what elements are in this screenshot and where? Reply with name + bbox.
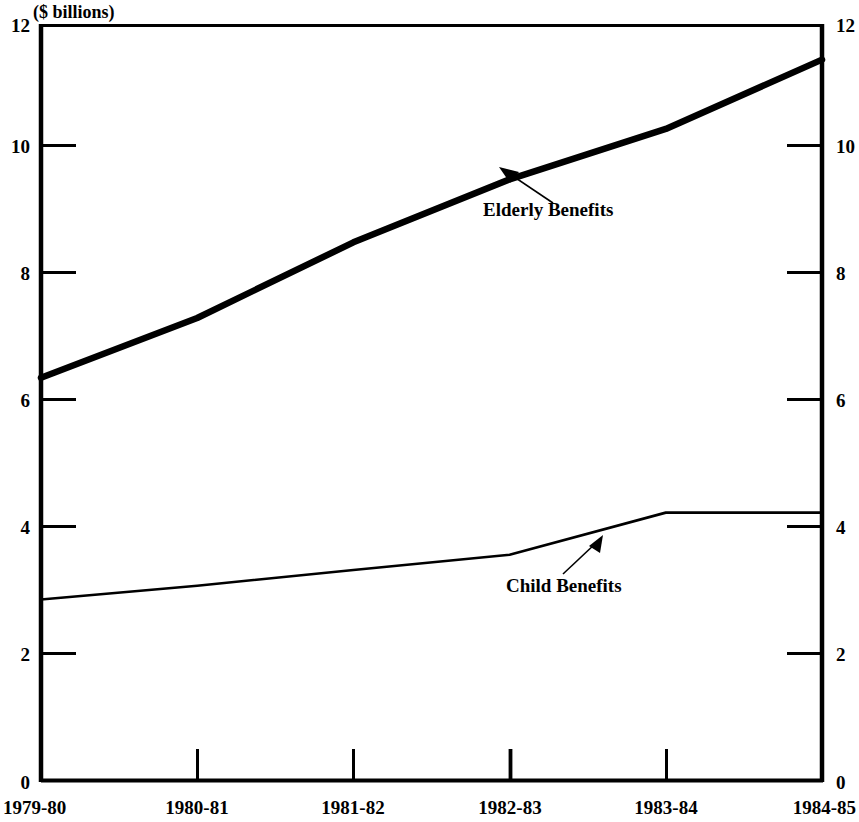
y-label-right-10: 10: [836, 136, 855, 157]
chart-unit-title: ($ billions): [33, 2, 115, 23]
x-label-1984-85: 1984-85: [793, 797, 856, 818]
y-label-left-0: 0: [21, 772, 31, 793]
elderly-benefits-label: Elderly Benefits: [483, 199, 613, 220]
x-label-1979-80: 1979-80: [3, 797, 66, 818]
x-label-1981-82: 1981-82: [321, 797, 384, 818]
x-label-1983-84: 1983-84: [634, 797, 698, 818]
y-label-right-12: 12: [836, 15, 855, 36]
y-label-right-6: 6: [836, 390, 846, 411]
line-chart-canvas: ($ billions): [0, 0, 859, 822]
y-label-left-8: 8: [21, 263, 31, 284]
y-label-right-2: 2: [836, 644, 846, 665]
y-label-right-8: 8: [836, 263, 846, 284]
y-label-left-6: 6: [21, 390, 31, 411]
y-label-left-10: 10: [11, 136, 30, 157]
chart-figure: ($ billions): [0, 0, 859, 822]
y-label-right-0: 0: [836, 772, 846, 793]
y-label-left-2: 2: [21, 644, 31, 665]
y-label-left-12: 12: [11, 15, 30, 36]
y-label-left-4: 4: [21, 517, 31, 538]
x-label-1982-83: 1982-83: [478, 797, 541, 818]
chart-background: [0, 0, 859, 822]
y-label-right-4: 4: [836, 517, 846, 538]
x-label-1980-81: 1980-81: [165, 797, 228, 818]
child-benefits-label: Child Benefits: [506, 575, 622, 596]
